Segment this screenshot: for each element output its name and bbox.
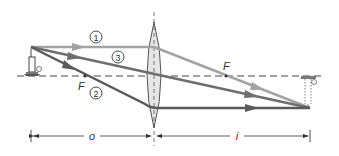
svg-text:2: 2	[93, 89, 98, 99]
ray-3	[31, 47, 310, 108]
svg-text:3: 3	[115, 53, 120, 63]
converging-lens	[147, 12, 161, 146]
near-focal-label: F	[78, 80, 86, 92]
object-candle-icon	[24, 49, 42, 76]
far-focal-point	[225, 75, 228, 78]
ray-1-label: 1	[90, 31, 102, 43]
ray-3-label: 3	[112, 51, 124, 63]
near-focal-point	[84, 75, 87, 78]
svg-text:o: o	[89, 130, 95, 142]
lens-ray-diagram: F F 1 2 3 o i	[0, 0, 339, 156]
svg-text:1: 1	[93, 33, 98, 43]
image-distance-dimension: i	[156, 130, 310, 142]
far-focal-label: F	[223, 60, 231, 72]
object-distance-dimension: o	[31, 130, 152, 142]
image-candle-icon	[301, 76, 317, 108]
svg-text:i: i	[236, 130, 239, 142]
ray-2-label: 2	[90, 87, 102, 99]
